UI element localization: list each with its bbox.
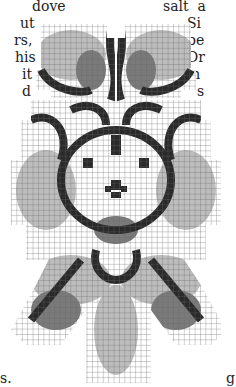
needlework-chart <box>11 10 221 383</box>
left-text-bottom: s. <box>0 370 12 387</box>
right-text-bottom: g <box>226 370 235 387</box>
